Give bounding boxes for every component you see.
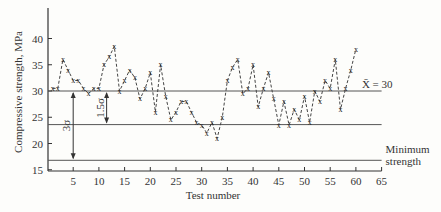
data-point-marker: x [61,55,65,64]
data-point-marker: x [200,121,204,130]
data-point-marker: x [287,121,291,130]
x-tick-label: 10 [93,175,105,187]
y-axis-title: Compressive strength, MPa [12,31,24,153]
x-tick-label: 45 [273,175,285,187]
x-tick-label: 40 [248,175,260,187]
data-point-marker: x [256,102,260,111]
data-point-marker: x [267,68,271,77]
data-point-marker: x [220,113,224,122]
data-point-marker: x [51,84,55,93]
data-point-marker: x [318,97,322,106]
data-point-marker: x [338,105,342,114]
data-point-marker: x [308,118,312,127]
data-point-marker: x [323,76,327,85]
x-tick-label: 20 [145,175,157,187]
data-point-marker: x [349,66,353,75]
data-point-marker: x [241,89,245,98]
minimum-strength-label: Minimum [386,143,430,155]
sigma-label: 3σ [60,120,72,131]
data-point-marker: x [138,94,142,103]
x-tick-label: 15 [119,175,131,187]
x-tick-label: 25 [171,175,183,187]
data-point-marker: x [272,94,276,103]
minimum-strength-label: strength [386,155,422,167]
data-point-marker: x [133,73,137,82]
x-tick-label: 50 [299,175,311,187]
data-point-marker: x [225,76,229,85]
data-point-marker: x [143,84,147,93]
data-point-marker: x [184,97,188,106]
data-point-marker: x [189,108,193,117]
y-tick-label: 15 [32,164,44,176]
data-point-marker: x [292,105,296,114]
data-point-marker: x [76,76,80,85]
data-point-marker: x [56,84,60,93]
data-point-marker: x [246,84,250,93]
y-tick-label: 40 [32,33,44,45]
data-point-marker: x [210,118,214,127]
sigma-label: 1.5σ [94,98,106,118]
reference-lines: X̄ = 30Minimumstrength [48,78,430,167]
data-point-marker: x [107,52,111,61]
data-point-marker: x [117,87,121,96]
data-point-marker: x [92,84,96,93]
data-point-marker: x [159,60,163,69]
data-point-marker: x [277,121,281,130]
data-series: xxxxxxxxxxxxxxxxxxxxxxxxxxxxxxxxxxxxxxxx… [51,42,358,143]
data-point-marker: x [179,97,183,106]
x-tick-label: 55 [325,175,337,187]
data-point-marker: x [87,89,91,98]
data-point-marker: x [169,115,173,124]
data-point-marker: x [313,87,317,96]
data-point-marker: x [205,129,209,138]
x-tick-label: 30 [196,175,208,187]
x-tick-label: 5 [70,175,76,187]
data-point-marker: x [81,84,85,93]
control-chart: 1520253035405101520253035404550556065 X̄… [0,0,441,212]
data-point-marker: x [303,92,307,101]
data-point-marker: x [66,66,70,75]
data-point-marker: x [344,84,348,93]
y-tick-label: 30 [32,85,44,97]
data-point-marker: x [231,63,235,72]
data-point-marker: x [297,115,301,124]
data-point-marker: x [354,45,358,54]
x-tick-label: 60 [350,175,362,187]
data-point-marker: x [236,55,240,64]
data-point-marker: x [148,68,152,77]
data-point-marker: x [71,76,75,85]
x-tick-label: 35 [222,175,234,187]
data-point-marker: x [174,108,178,117]
data-point-marker: x [102,60,106,69]
data-point-marker: x [328,84,332,93]
data-point-marker: x [251,60,255,69]
data-point-marker: x [112,42,116,51]
y-tick-label: 20 [32,138,44,150]
mean-label: X̄ = 30 [362,78,393,90]
y-tick-label: 25 [32,111,44,123]
data-point-marker: x [128,66,132,75]
arrow-up-icon [71,92,76,98]
data-point-marker: x [282,97,286,106]
x-tick-label: 65 [376,175,388,187]
data-point-marker: x [153,108,157,117]
data-point-marker: x [195,118,199,127]
data-point-marker: x [123,76,127,85]
data-point-marker: x [333,55,337,64]
arrow-down-icon [71,153,76,159]
y-tick-label: 35 [32,59,44,71]
x-axis-title: Test number [186,189,241,201]
data-point-marker: x [261,84,265,93]
data-point-marker: x [97,84,101,93]
data-point-marker: x [164,92,168,101]
data-point-marker: x [215,134,219,143]
arrow-up-icon [104,92,109,98]
annotations: 3σ1.5σ [60,92,109,159]
